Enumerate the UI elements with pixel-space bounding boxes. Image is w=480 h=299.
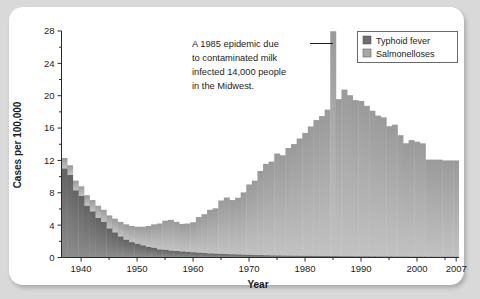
legend-label-salmonelloses: Salmonelloses [376,49,435,59]
bar-salmonelloses [218,200,224,253]
bar-salmonelloses [285,148,291,256]
bar-salmonelloses [341,90,347,257]
bar-salmonelloses [207,210,213,254]
bar-salmonelloses [336,99,342,256]
bar-salmonelloses [297,139,303,256]
bar-salmonelloses [185,224,191,252]
bar-salmonelloses [364,106,370,256]
bar-salmonelloses [101,210,107,222]
bar-typhoid-fever [89,211,95,257]
y-tick-label: 12 [44,155,55,166]
bar-typhoid-fever [106,228,112,257]
bar-salmonelloses [235,198,241,255]
bar-typhoid-fever [201,253,207,257]
bar-salmonelloses [168,220,174,251]
bar-salmonelloses [269,162,275,256]
y-tick-label: 24 [44,58,55,69]
bar-salmonelloses [409,140,415,256]
bar-salmonelloses [403,143,409,256]
bar-typhoid-fever [123,240,129,258]
bar-typhoid-fever [129,242,135,257]
bar-salmonelloses [280,155,286,255]
bar-salmonelloses [308,126,314,255]
annotation-line-2: to contaminated milk [192,53,278,63]
bar-salmonelloses [117,222,123,237]
bar-salmonelloses [190,222,196,252]
bar-salmonelloses [145,226,151,247]
x-tick-label: 1940 [71,263,92,274]
bar-typhoid-fever [117,236,123,257]
x-tick-label: 2000 [406,263,427,274]
bar-typhoid-fever [173,251,179,257]
bar-salmonelloses [397,135,403,256]
bar-salmonelloses [375,116,381,257]
bar-typhoid-fever [62,169,68,258]
bar-salmonelloses [437,160,443,257]
bar-salmonelloses [201,214,207,253]
bar-salmonelloses [420,143,426,256]
bar-typhoid-fever [140,245,146,257]
bar-salmonelloses [257,171,263,255]
bar-salmonelloses [442,160,448,256]
x-tick-label: 2007 [446,263,467,274]
bar-typhoid-fever [218,254,224,258]
chart-svg: 0481216202428 19401950196019701980199020… [0,0,480,299]
bar-typhoid-fever [179,251,185,257]
legend-swatch-typhoid-fever [363,36,371,44]
bar-typhoid-fever [207,253,213,257]
bar-salmonelloses [162,221,168,250]
bar-salmonelloses [229,200,235,254]
bar-salmonelloses [386,126,392,256]
bar-salmonelloses [129,226,135,242]
bar-typhoid-fever [101,222,107,258]
bar-salmonelloses [246,184,252,254]
y-axis-ticks: 0481216202428 [44,25,62,263]
bar-salmonelloses [112,219,118,233]
x-tick-label: 1980 [294,263,315,274]
legend: Typhoid fever Salmonelloses [358,32,458,63]
bar-salmonelloses [134,227,140,244]
bar-typhoid-fever [78,196,84,257]
bar-salmonelloses [78,186,84,196]
bar-typhoid-fever [95,218,101,258]
bar-salmonelloses [358,101,364,256]
bar-salmonelloses [263,164,269,255]
x-axis-title: Year [247,279,268,290]
y-tick-label: 4 [49,220,54,231]
y-tick-label: 8 [49,187,54,198]
bar-typhoid-fever [84,206,90,258]
bar-salmonelloses [425,160,431,257]
bar-salmonelloses [62,158,68,169]
bar-salmonelloses [173,222,179,251]
bar-salmonelloses [448,160,454,256]
bar-salmonelloses [330,31,336,256]
bar-salmonelloses [313,120,319,256]
y-tick-label: 0 [49,252,54,263]
bar-salmonelloses [347,95,353,256]
bar-typhoid-fever [190,252,196,257]
bar-typhoid-fever [73,190,79,257]
bar-salmonelloses [95,206,101,218]
bar-salmonelloses [291,144,297,256]
bar-typhoid-fever [162,250,168,258]
bar-salmonelloses [392,125,398,257]
chart-page: 0481216202428 19401950196019701980199020… [0,0,480,299]
y-tick-label: 20 [44,90,55,101]
bar-salmonelloses [196,217,202,253]
bar-typhoid-fever [112,232,118,257]
bar-salmonelloses [89,200,95,211]
bar-salmonelloses [106,215,112,228]
bar-salmonelloses [151,224,157,247]
bar-salmonelloses [140,227,146,246]
bar-salmonelloses [224,197,230,254]
x-tick-label: 1960 [182,263,203,274]
bar-typhoid-fever [213,254,219,258]
bar-salmonelloses [157,224,163,250]
bar-salmonelloses [353,100,359,256]
x-tick-label: 1990 [350,263,371,274]
x-tick-label: 1970 [238,263,259,274]
legend-label-typhoid-fever: Typhoid fever [376,36,430,46]
bar-typhoid-fever [157,249,163,257]
bar-typhoid-fever [185,252,191,258]
bar-salmonelloses [179,224,185,252]
